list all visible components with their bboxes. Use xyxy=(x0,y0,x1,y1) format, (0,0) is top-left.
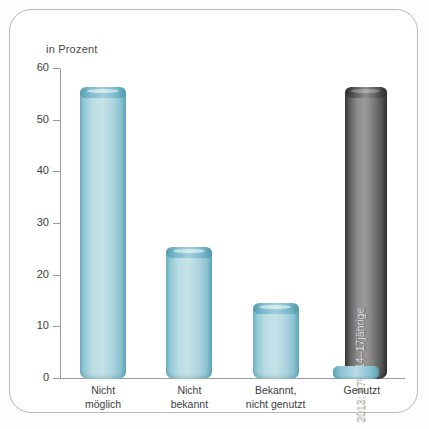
x-axis-label: Nichtbekannt xyxy=(146,384,232,411)
y-tick-label: 20 xyxy=(37,268,49,280)
bar-cyan[interactable] xyxy=(80,87,126,379)
y-tick-mark xyxy=(53,275,60,276)
y-tick-label: 40 xyxy=(37,164,49,176)
y-tick-label: 50 xyxy=(37,113,49,125)
y-tick-mark xyxy=(53,171,60,172)
x-axis-label: Nichtmöglich xyxy=(60,384,146,411)
x-axis-label-line: bekannt xyxy=(146,398,232,412)
bar-cyan-stub[interactable] xyxy=(333,366,379,379)
x-axis-label-line: nicht genutzt xyxy=(233,398,319,412)
y-tick-mark xyxy=(53,378,60,379)
x-axis-label-line: Nicht xyxy=(60,384,146,398)
x-axis-label-line: möglich xyxy=(60,398,146,412)
x-axis-labels: NichtmöglichNichtbekanntBekannt,nicht ge… xyxy=(60,384,405,418)
y-tick-label: 0 xyxy=(43,371,49,383)
bar-cyan[interactable] xyxy=(253,303,299,379)
bar-group: 2013: 57% 14–17jährige xyxy=(60,69,405,379)
y-tick-label: 60 xyxy=(37,61,49,73)
y-tick-mark xyxy=(53,223,60,224)
bar-slot xyxy=(253,69,299,379)
x-axis-label-line: Genutzt xyxy=(319,384,405,398)
chart-plot-area: in Prozent 0102030405060 2013: 57% 14–17… xyxy=(10,10,419,414)
bar-slot-comparison: 2013: 57% 14–17jährige xyxy=(345,69,387,379)
y-tick-mark xyxy=(53,120,60,121)
bar-gray[interactable]: 2013: 57% 14–17jährige xyxy=(345,87,387,379)
y-tick-mark xyxy=(53,68,60,69)
x-axis-label: Bekannt,nicht genutzt xyxy=(233,384,319,411)
bar-slot xyxy=(80,69,126,379)
chart-card: in Prozent 0102030405060 2013: 57% 14–17… xyxy=(9,9,418,413)
bar-cyan[interactable] xyxy=(166,247,212,379)
x-axis-label: Genutzt xyxy=(319,384,405,398)
y-tick-label: 10 xyxy=(37,319,49,331)
screenshot-root: in Prozent 0102030405060 2013: 57% 14–17… xyxy=(0,0,429,429)
x-axis-label-line: Nicht xyxy=(146,384,232,398)
y-axis-unit-label: in Prozent xyxy=(46,43,98,55)
y-tick-label: 30 xyxy=(37,216,49,228)
bar-slot xyxy=(166,69,212,379)
y-tick-mark xyxy=(53,326,60,327)
x-axis-label-line: Bekannt, xyxy=(233,384,319,398)
